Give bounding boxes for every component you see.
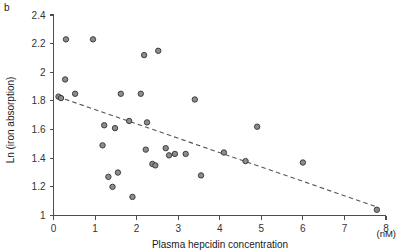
data-point <box>221 150 226 155</box>
data-point <box>374 207 379 212</box>
data-point <box>58 95 63 100</box>
data-point <box>144 120 149 125</box>
x-axis-ticks <box>54 216 387 220</box>
x-tick-label: 4 <box>217 223 223 234</box>
x-tick-label: 5 <box>259 223 265 234</box>
data-point <box>198 173 203 178</box>
x-tick-label: 1 <box>92 223 98 234</box>
data-point <box>163 145 168 150</box>
data-point <box>90 37 95 42</box>
y-tick-label: 1.8 <box>32 95 46 106</box>
data-point <box>112 125 117 130</box>
x-tick-label: 7 <box>342 223 348 234</box>
x-axis-unit-label: (nM) <box>376 228 396 239</box>
data-point <box>153 163 158 168</box>
data-point <box>243 158 248 163</box>
x-axis-tick-labels: 012345678 <box>51 223 390 234</box>
y-tick-label: 2 <box>40 67 46 78</box>
data-point <box>183 151 188 156</box>
data-point <box>130 194 135 199</box>
axes-frame <box>54 15 387 216</box>
y-tick-label: 1.2 <box>32 181 46 192</box>
figure-panel-b: b 11.21.41.61.822.22.4 012345678 Plasma … <box>0 0 403 252</box>
data-point <box>192 97 197 102</box>
y-axis-tick-labels: 11.21.41.61.822.22.4 <box>32 10 46 222</box>
y-tick-label: 1.4 <box>32 153 46 164</box>
y-tick-label: 2.2 <box>32 38 46 49</box>
x-axis-title: Plasma hepcidin concentration <box>152 239 288 250</box>
scatter-plot: 11.21.41.61.822.22.4 012345678 Plasma he… <box>0 0 403 252</box>
data-point <box>62 77 67 82</box>
x-tick-label: 3 <box>175 223 181 234</box>
data-point <box>100 143 105 148</box>
data-point <box>110 184 115 189</box>
data-point <box>141 52 146 57</box>
y-tick-label: 1 <box>40 210 46 221</box>
x-tick-label: 0 <box>51 223 57 234</box>
data-point <box>118 91 123 96</box>
data-point <box>115 170 120 175</box>
x-tick-label: 2 <box>134 223 140 234</box>
data-point <box>172 151 177 156</box>
data-point <box>300 160 305 165</box>
data-point <box>138 91 143 96</box>
data-point <box>143 147 148 152</box>
data-point <box>102 123 107 128</box>
data-point <box>72 91 77 96</box>
y-tick-label: 1.6 <box>32 124 46 135</box>
y-axis-ticks <box>50 15 54 216</box>
data-point <box>166 153 171 158</box>
data-point <box>254 124 259 129</box>
data-point <box>106 174 111 179</box>
data-point <box>126 118 131 123</box>
data-point <box>63 37 68 42</box>
y-tick-label: 2.4 <box>32 10 46 21</box>
data-point <box>156 48 161 53</box>
trend-line <box>58 97 377 207</box>
data-points <box>56 37 380 213</box>
x-tick-label: 6 <box>300 223 306 234</box>
y-axis-title: Ln (iron absorption) <box>5 77 16 164</box>
